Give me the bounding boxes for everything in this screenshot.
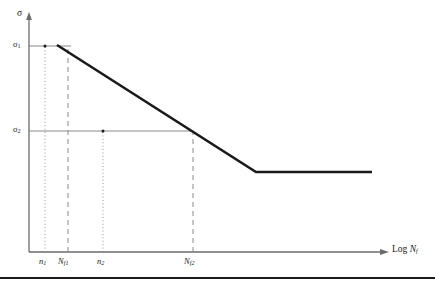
footer-rule	[0, 277, 435, 279]
sn-curve	[57, 45, 372, 172]
nf1-subscript: f1	[64, 259, 69, 266]
x-axis-title: Log Nf	[392, 244, 418, 254]
fatigue-curve-figure: σ σ1 σ2 n1 Nf1 n2 Nf2 Log Nf	[0, 0, 435, 286]
x-tick-label-n1: n1	[39, 256, 46, 266]
x-tick-label-nf1: Nf1	[58, 256, 69, 266]
y-axis	[26, 12, 32, 252]
sigma1-subscript: 1	[18, 42, 21, 49]
x-axis-title-prefix: Log	[392, 244, 410, 254]
sigma2-subscript: 2	[18, 127, 21, 134]
y-tick-label-sigma1: σ1	[13, 39, 21, 49]
x-axis-title-subscript: f	[416, 247, 418, 254]
n1-marker-dot	[44, 45, 47, 48]
y-axis-title: σ	[17, 8, 22, 18]
n1-subscript: 1	[43, 259, 46, 266]
x-tick-label-n2: n2	[97, 256, 104, 266]
x-axis	[29, 249, 389, 255]
y-axis-arrow-icon	[26, 12, 32, 20]
x-tick-label-nf2: Nf2	[184, 256, 195, 266]
x-axis-arrow-icon	[380, 249, 389, 255]
nf2-subscript: f2	[190, 259, 195, 266]
n2-marker-dot	[102, 130, 105, 133]
plot-canvas	[0, 0, 435, 286]
y-tick-label-sigma2: σ2	[13, 124, 21, 134]
n2-subscript: 2	[101, 259, 104, 266]
